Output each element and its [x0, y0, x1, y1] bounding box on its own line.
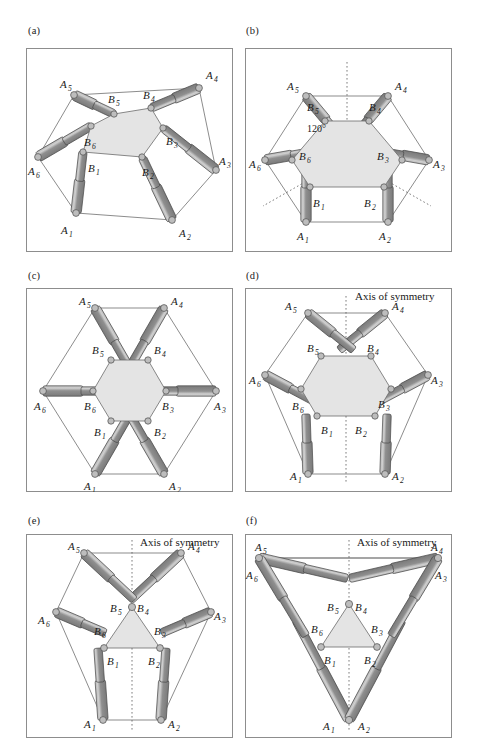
panel-c-diagram: A1 A2 A3 A4 A5 A6 B1 B2 B3 B4 B5 B6 — [26, 288, 233, 492]
panel-f-axis-label: Axis of symmetry — [357, 536, 437, 548]
svg-text:B: B — [107, 655, 114, 667]
svg-text:1: 1 — [92, 486, 96, 492]
svg-text:3: 3 — [221, 406, 226, 415]
svg-text:2: 2 — [187, 233, 191, 242]
svg-text:A: A — [394, 80, 402, 92]
svg-text:A: A — [218, 155, 226, 167]
svg-text:3: 3 — [226, 161, 231, 170]
panel-f-label: (f) — [246, 515, 257, 526]
svg-text:2: 2 — [176, 724, 180, 733]
svg-text:1: 1 — [96, 168, 100, 177]
svg-text:B: B — [166, 135, 173, 147]
panel-d-axis-label: Axis of symmetry — [355, 290, 435, 302]
svg-text:1: 1 — [92, 724, 96, 733]
svg-text:5: 5 — [335, 607, 339, 616]
svg-text:B: B — [154, 344, 161, 356]
svg-text:B: B — [321, 424, 328, 436]
svg-text:B: B — [327, 601, 334, 613]
svg-text:3: 3 — [440, 164, 445, 173]
svg-text:1: 1 — [102, 432, 106, 441]
panel-b-label: (b) — [246, 25, 259, 36]
svg-text:3: 3 — [438, 380, 443, 389]
panel-e-label: (e) — [28, 515, 40, 526]
svg-text:B: B — [311, 623, 318, 635]
svg-text:A: A — [296, 230, 304, 242]
svg-text:2: 2 — [366, 726, 370, 735]
svg-text:A: A — [60, 224, 68, 236]
svg-text:B: B — [148, 655, 155, 667]
svg-text:6: 6 — [92, 406, 96, 415]
svg-text:5: 5 — [263, 547, 267, 556]
svg-text:5: 5 — [293, 306, 297, 315]
svg-text:5: 5 — [118, 608, 122, 617]
svg-text:B: B — [371, 623, 378, 635]
svg-text:2: 2 — [162, 432, 166, 441]
panel-f-diagram: A1 A2 A3 A4 A5 A6 B1 B2 B3 B4 B5 B6 Axis… — [245, 534, 452, 738]
svg-text:B: B — [110, 602, 117, 614]
svg-text:4: 4 — [375, 348, 379, 357]
svg-text:A: A — [434, 569, 442, 581]
svg-text:5: 5 — [315, 107, 319, 116]
svg-text:4: 4 — [363, 607, 367, 616]
svg-text:5: 5 — [87, 301, 91, 310]
svg-text:A: A — [205, 69, 213, 81]
svg-text:3: 3 — [378, 629, 383, 638]
svg-text:B: B — [355, 601, 362, 613]
svg-text:A: A — [378, 230, 386, 242]
svg-text:4: 4 — [439, 547, 443, 556]
svg-text:A: A — [245, 569, 253, 581]
svg-text:B: B — [313, 197, 320, 209]
svg-text:A: A — [33, 400, 41, 412]
svg-text:A: A — [178, 227, 186, 239]
panel-c: (c) — [0, 260, 240, 510]
svg-text:A: A — [83, 480, 91, 492]
svg-text:6: 6 — [257, 164, 261, 173]
svg-text:B: B — [367, 342, 374, 354]
svg-text:2: 2 — [372, 660, 376, 669]
svg-text:4: 4 — [145, 608, 149, 617]
svg-text:2: 2 — [372, 203, 376, 212]
svg-text:6: 6 — [42, 406, 46, 415]
svg-text:B: B — [92, 344, 99, 356]
svg-text:4: 4 — [403, 86, 407, 95]
svg-text:A: A — [357, 720, 365, 732]
svg-text:A: A — [286, 80, 294, 92]
svg-text:5: 5 — [100, 350, 104, 359]
svg-text:2: 2 — [156, 661, 160, 670]
svg-text:A: A — [59, 78, 67, 90]
svg-text:4: 4 — [214, 75, 218, 84]
panel-d: (d) A1 A2 — [240, 260, 479, 510]
svg-text:A: A — [37, 614, 45, 626]
svg-text:1: 1 — [115, 661, 119, 670]
svg-text:B: B — [378, 398, 385, 410]
svg-text:A: A — [391, 470, 399, 482]
svg-text:B: B — [108, 93, 115, 105]
svg-text:A: A — [284, 300, 292, 312]
svg-text:A: A — [213, 610, 221, 622]
svg-text:A: A — [322, 720, 330, 732]
svg-text:3: 3 — [442, 575, 447, 584]
svg-text:A: A — [248, 158, 256, 170]
svg-text:B: B — [307, 101, 314, 113]
svg-text:5: 5 — [76, 546, 80, 555]
svg-text:6: 6 — [257, 380, 261, 389]
svg-text:B: B — [84, 136, 91, 148]
svg-text:2: 2 — [400, 476, 404, 485]
svg-text:3: 3 — [173, 141, 178, 150]
panel-b: (b) — [240, 0, 479, 260]
svg-text:A: A — [248, 374, 256, 386]
svg-text:6: 6 — [300, 406, 304, 415]
svg-text:B: B — [94, 426, 101, 438]
svg-text:5: 5 — [295, 86, 299, 95]
svg-text:B: B — [154, 426, 161, 438]
svg-text:1: 1 — [298, 476, 302, 485]
panel-d-label: (d) — [246, 270, 259, 281]
svg-text:6: 6 — [36, 171, 40, 180]
svg-text:1: 1 — [305, 236, 309, 245]
svg-text:A: A — [27, 165, 35, 177]
svg-text:A: A — [83, 718, 91, 730]
svg-text:B: B — [299, 150, 306, 162]
svg-text:6: 6 — [46, 620, 50, 629]
svg-text:4: 4 — [151, 95, 155, 104]
svg-text:B: B — [84, 400, 91, 412]
